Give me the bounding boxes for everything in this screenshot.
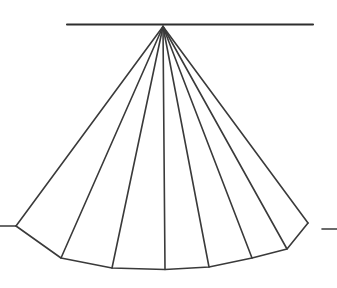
cone-development-drawing: [0, 0, 337, 288]
figure-canvas: [0, 0, 337, 288]
